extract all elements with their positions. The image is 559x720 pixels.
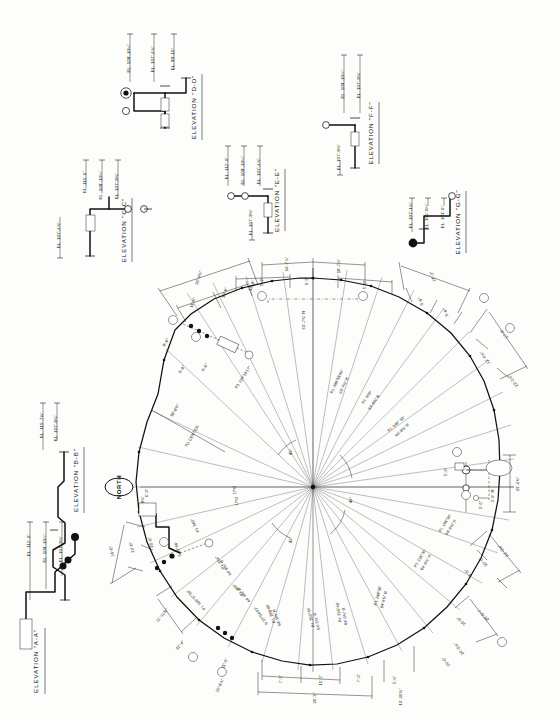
elevation-section-A-A: EL. 112'-6" EL. 109'-10½" EL. 107'-9⅝" E… bbox=[20, 522, 79, 694]
node-D-2 bbox=[122, 107, 129, 114]
drawing-canvas: NORTH 45° 45° 45° 17°0' bbox=[0, 0, 559, 720]
pi-label-4: P.I. 345° bbox=[189, 517, 200, 533]
dimension-chain-upper-right bbox=[399, 262, 470, 324]
angle-label-45-c: 45° bbox=[289, 537, 293, 543]
equipment-box-A bbox=[20, 619, 32, 649]
dim-upper-right-4: 12'-4⅞" bbox=[478, 350, 491, 365]
left-upper-detail bbox=[183, 324, 253, 359]
angle-label-45-b: 45° bbox=[289, 449, 293, 455]
dim-right-3: 5'-0" bbox=[443, 467, 448, 476]
ref-bubble-right-a bbox=[506, 324, 515, 333]
elevation-title-B: ELEVATION "B-B" bbox=[72, 448, 79, 512]
elev-callout-A-1: EL. 109'-10½" bbox=[42, 533, 47, 562]
dim-right-lower-4: 10'-0" bbox=[455, 615, 467, 627]
pipe-run-D-3 bbox=[165, 78, 186, 93]
dim-top-2: 5'-2" bbox=[259, 277, 264, 286]
elev-callout-E-0: EL. 112'-0" bbox=[224, 157, 229, 180]
dim-left-upper-1: 5'-6" bbox=[177, 364, 186, 374]
drawing-sheet: NORTH 45° 45° 45° 17°0' bbox=[0, 0, 559, 720]
dim-bottom-0: 26'-9" bbox=[312, 692, 317, 703]
valve-C bbox=[86, 215, 95, 231]
pi-label-0: P.I. 118°18'17" bbox=[234, 365, 252, 390]
angle-label-17-0: 17°0' bbox=[233, 485, 237, 494]
elev-callout-C-1: EL. 109'-10½" bbox=[98, 170, 103, 199]
node-D-1-core bbox=[123, 90, 128, 95]
elev-callout-G-0: EL. 107'-1⅞" bbox=[408, 202, 413, 229]
dim-top-3: 9'-5" bbox=[304, 276, 309, 285]
node-G-1 bbox=[409, 239, 418, 248]
elevation-section-D-D: EL. 109'-10½" EL. 107'-4⅝" EL. 99'-10" E… bbox=[121, 34, 202, 140]
dim-right-lower-2: 8'-5" bbox=[463, 568, 473, 578]
to-center-dimension: 36'-6¾" bbox=[169, 402, 181, 417]
dim-left-detail-0: 6'-9" bbox=[144, 488, 149, 497]
elevation-section-B-B: EL. 115'-7⅞" EL. 107'-9⅝" ELEVATION "B-B… bbox=[39, 403, 84, 600]
valve-D-1 bbox=[161, 98, 169, 111]
elevation-title-A: ELEVATION "A-A" bbox=[32, 629, 39, 693]
dim-upper-right-5: 23'-2⅞" bbox=[506, 373, 519, 388]
plan-center-hub bbox=[311, 485, 315, 489]
elev-callout-E-1: EL. 109'-10½" bbox=[240, 155, 245, 184]
valve-F bbox=[351, 132, 359, 146]
dim-right-lower-0: 22'-2½" bbox=[496, 543, 509, 558]
pipe-caps-B bbox=[50, 452, 70, 600]
elev-callout-A-0: EL. 112'-6" bbox=[26, 534, 31, 557]
elev-callout-F-1: EL. 107'-9⅝" bbox=[356, 72, 361, 99]
ref-bubble-top-a bbox=[258, 292, 267, 301]
dim-left-3: 11'-11⅜" bbox=[155, 607, 170, 623]
dim-right-lower-1: 10'-0" bbox=[477, 556, 488, 568]
angle-label-45-a: 45° bbox=[349, 497, 353, 503]
ref-bubble-bottom-b bbox=[218, 668, 227, 677]
elevation-section-F-F: EL. 109'-10½" EL. 107'-9⅝" EL. 107'-9⅝" … bbox=[323, 55, 379, 175]
dim-bottom-1: 7'-5" bbox=[278, 674, 283, 683]
node-A-3 bbox=[71, 533, 79, 541]
elev-callout-E-2: EL. 107'-4⅝" bbox=[256, 158, 261, 185]
dim-upper-right-1: 5'-6" bbox=[417, 296, 425, 306]
node-A-1 bbox=[65, 557, 72, 564]
dim-left-2: 20'-6" bbox=[147, 536, 154, 548]
bearing-note-2: 17°0' bbox=[235, 496, 239, 505]
ref-bubble-bottom bbox=[189, 653, 198, 662]
elev-callout-A-2: EL. 107'-9⅝" bbox=[58, 536, 63, 563]
dim-bottom-2: 11'-5" bbox=[318, 674, 323, 685]
elev-callout-D-1: EL. 107'-4⅝" bbox=[150, 46, 155, 73]
elev-callout-D-2: EL. 99'-10" bbox=[170, 47, 175, 70]
elevation-title-G: ELEVATION "G-G" bbox=[454, 189, 461, 254]
dim-bottom-8: 10'-0" bbox=[440, 656, 451, 668]
elevation-section-E-E: EL. 112'-0" EL. 109'-10½" EL. 107'-4⅝" E… bbox=[224, 146, 285, 240]
pipe-run-A bbox=[26, 537, 75, 619]
pipe-run-D-2 bbox=[134, 93, 165, 111]
dim-upper-right-0: 17'-2" bbox=[428, 270, 436, 282]
ref-bubble-lower-right bbox=[498, 638, 507, 647]
dim-left-upper-2: 5'-0" bbox=[200, 362, 209, 372]
dim-right-1: 3'-9" R bbox=[490, 490, 495, 503]
dim-upper-left-0: 35'-9½" bbox=[194, 269, 203, 285]
ref-bubble-upper-right bbox=[480, 294, 489, 303]
dimension-chain-upper-left bbox=[158, 258, 258, 322]
elev-callout-F-0: EL. 109'-10½" bbox=[340, 69, 345, 98]
elevation-section-G-G: EL. 107'-1⅞" EL. 102'-8½" EL. 101'-0" EL… bbox=[408, 189, 466, 254]
dim-bottom-9: 20'-5⅞" bbox=[452, 641, 465, 656]
dim-left-4: 32'-4" bbox=[174, 639, 185, 651]
right-detail-assembly bbox=[455, 455, 516, 512]
dim-bottom-6: 20'-8⅞" bbox=[214, 677, 225, 693]
elevation-title-D: ELEVATION "D-D" bbox=[190, 75, 197, 139]
dimension-chain-bottom bbox=[258, 646, 414, 699]
dimension-chain-left bbox=[110, 522, 196, 634]
dim-right-lower-3: 20'-5⅞" bbox=[476, 608, 490, 622]
dim-upper-left-2: 10'-6" bbox=[220, 286, 228, 298]
dim-left-0: 16'-0" bbox=[108, 545, 115, 557]
dimension-chain-right-upper2 bbox=[470, 309, 528, 379]
elev-callout-B-1: EL. 107'-9⅝" bbox=[53, 415, 58, 442]
elev-callout-C-3: EL. 107'-4⅝" bbox=[56, 222, 61, 249]
ref-bubble-right-c bbox=[462, 491, 471, 500]
ref-bubble-top-left bbox=[169, 316, 178, 325]
center-radius-note: 63'-7⅜" R bbox=[301, 311, 306, 330]
dimension-chain-top bbox=[236, 258, 392, 294]
elev-callout-C-2: EL. 107'-9⅝" bbox=[114, 173, 119, 200]
ref-bubble-right-b bbox=[453, 448, 462, 457]
dim-upper-left-1: 11'-6" bbox=[189, 296, 197, 308]
elevation-title-E: ELEVATION "E-E" bbox=[273, 168, 280, 232]
ref-bubble-left bbox=[160, 538, 169, 547]
pi-radius-9: 64'-9⅜" R bbox=[341, 607, 348, 625]
ref-bubble-left-b bbox=[192, 333, 201, 342]
